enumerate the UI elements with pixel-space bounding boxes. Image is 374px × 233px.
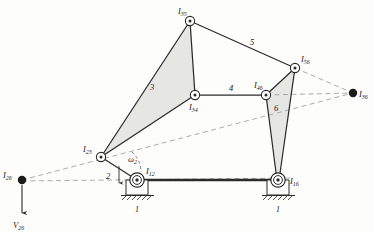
label-link-4: 4 — [229, 83, 234, 93]
joint-I35 — [185, 16, 194, 25]
label-I36: I36 — [358, 89, 368, 100]
label-omega-sub: 2 — [134, 159, 137, 165]
joint-I46 — [261, 90, 270, 99]
label-I12-sub: 12 — [149, 171, 155, 177]
dot-I36 — [349, 89, 357, 97]
label-I46-sub: 46 — [257, 85, 263, 91]
link-5-edge-I35-I56 — [190, 21, 295, 68]
linkage-diagram: I35 I34 I23 I46 I56 I12 I16 I26 — [0, 0, 374, 233]
ternary-link-3-shape — [101, 21, 195, 157]
dash-line-I26-I36 — [22, 93, 353, 180]
label-I34-sub: 34 — [191, 107, 198, 113]
linkage-svg: I35 I34 I23 I46 I56 I12 I16 I26 — [0, 0, 374, 233]
label-omega-2: ω2 — [128, 154, 137, 165]
pin-core-I16 — [276, 178, 279, 181]
dot-I26 — [18, 176, 26, 184]
label-I26: I26 — [2, 170, 12, 181]
label-I26-sub: 26 — [6, 175, 12, 181]
label-I23-sub: 23 — [86, 149, 92, 155]
joint-I56 — [290, 63, 299, 72]
label-link-3: 3 — [149, 82, 154, 92]
label-V26-sub: 26 — [18, 225, 24, 231]
label-I35: I35 — [177, 6, 187, 17]
label-I56: I56 — [300, 54, 310, 65]
dash-line-I56-I36 — [295, 68, 353, 93]
label-I16-sub: 16 — [293, 181, 299, 187]
ground-hatch-right — [263, 196, 292, 200]
joint-I34 — [190, 90, 199, 99]
label-link-5: 5 — [250, 37, 254, 47]
label-I35-sub: 35 — [180, 11, 187, 17]
label-I36-sub: 36 — [361, 94, 368, 100]
label-I16: I16 — [289, 176, 299, 187]
ground-hatch-left — [122, 196, 151, 200]
pin-core-I12 — [135, 178, 138, 181]
label-I12: I12 — [145, 166, 155, 177]
label-link-2: 2 — [106, 171, 111, 181]
label-I56-sub: 56 — [304, 59, 310, 65]
joint-I23 — [96, 152, 105, 161]
label-I34: I34 — [188, 102, 198, 113]
label-I23: I23 — [82, 144, 92, 155]
label-V26: V26 — [13, 220, 24, 231]
label-ground-left: 1 — [135, 205, 139, 214]
label-I46: I46 — [253, 80, 263, 91]
label-ground-right: 1 — [276, 205, 280, 214]
